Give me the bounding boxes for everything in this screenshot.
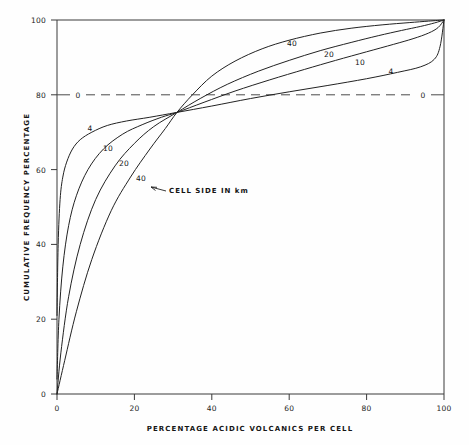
reference-line-label-right: 0 (421, 91, 426, 100)
y-tick-label: 80 (36, 91, 46, 100)
y-tick-labels: 0 20 40 60 80 100 (31, 16, 46, 399)
curve-series-4 (57, 20, 444, 315)
x-axis-ticks (57, 394, 444, 400)
y-tick-label: 20 (36, 315, 46, 324)
x-tick-label: 0 (55, 404, 60, 413)
figure-container: 0 20 40 60 80 100 0 20 40 60 80 100 0 0 (0, 0, 469, 445)
y-tick-label: 60 (36, 166, 46, 175)
y-axis-ticks (51, 20, 57, 394)
annotation-cell-side: CELL SIDE IN km (151, 187, 249, 195)
y-tick-label: 100 (31, 16, 46, 25)
curve-series-20 (57, 20, 444, 394)
annotation-label: CELL SIDE IN km (169, 187, 249, 195)
cumulative-frequency-chart: 0 20 40 60 80 100 0 20 40 60 80 100 0 0 (0, 0, 469, 445)
x-tick-label: 40 (207, 404, 217, 413)
curve-label-upper-10: 10 (355, 58, 365, 67)
axes-frame (57, 20, 444, 394)
x-tick-label: 60 (284, 404, 294, 413)
reference-line-label-left: 0 (76, 91, 81, 100)
y-tick-label: 40 (36, 240, 46, 249)
x-tick-labels: 0 20 40 60 80 100 (55, 404, 452, 413)
curve-label-upper-4: 4 (388, 67, 393, 76)
y-axis-title: CUMULATIVE FREQUENCY PERCENTAGE (23, 113, 31, 301)
curve-label-lower-40: 40 (136, 174, 146, 183)
curve-labels-lower: 4 10 20 40 (87, 124, 146, 183)
curve-label-lower-4: 4 (87, 124, 92, 133)
x-tick-label: 20 (129, 404, 139, 413)
x-tick-label: 80 (362, 404, 372, 413)
curve-labels-upper: 40 20 10 4 (287, 39, 394, 76)
curve-label-upper-20: 20 (324, 50, 334, 59)
curve-label-lower-10: 10 (103, 144, 113, 153)
curve-label-lower-20: 20 (119, 159, 129, 168)
x-axis-title: PERCENTAGE ACIDIC VOLCANICS PER CELL (147, 425, 354, 433)
data-curves (57, 20, 444, 394)
curve-label-upper-40: 40 (287, 39, 297, 48)
x-tick-label: 100 (437, 404, 452, 413)
curve-series-40 (57, 20, 444, 394)
y-tick-label: 0 (41, 390, 46, 399)
